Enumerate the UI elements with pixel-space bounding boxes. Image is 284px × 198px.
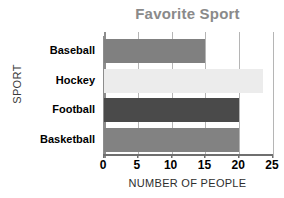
y-axis-category-labels: BaseballHockeyFootballBasketball — [0, 36, 99, 154]
x-axis-title: NUMBER OF PEOPLE — [103, 177, 272, 189]
bar-chart: Favorite Sport SPORT BaseballHockeyFootb… — [0, 0, 284, 198]
bar-row — [104, 125, 273, 155]
plot-area — [103, 36, 274, 154]
y-axis-label-basketball: Basketball — [40, 125, 95, 155]
bar-basketball — [104, 128, 239, 152]
x-tick-label-0: 0 — [88, 158, 118, 172]
y-axis-label-hockey: Hockey — [56, 66, 95, 96]
x-tick-label-10: 10 — [156, 158, 186, 172]
chart-title: Favorite Sport — [103, 5, 272, 22]
y-axis-label-football: Football — [52, 95, 95, 125]
bar-row — [104, 36, 273, 66]
bar-hockey — [104, 69, 263, 93]
x-tick-label-20: 20 — [223, 158, 253, 172]
bar-row — [104, 95, 273, 125]
x-tick-label-25: 25 — [257, 158, 284, 172]
x-axis-line — [103, 154, 273, 156]
x-tick-label-15: 15 — [189, 158, 219, 172]
x-tick-label-5: 5 — [122, 158, 152, 172]
gridline-25 — [273, 32, 274, 158]
y-axis-label-baseball: Baseball — [50, 36, 95, 66]
bar-baseball — [104, 39, 205, 63]
bar-row — [104, 66, 273, 96]
bar-football — [104, 98, 239, 122]
